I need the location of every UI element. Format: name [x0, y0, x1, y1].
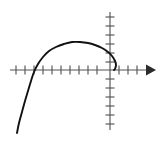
- coordinate-plot: [0, 0, 157, 142]
- graph-figure: [0, 0, 157, 142]
